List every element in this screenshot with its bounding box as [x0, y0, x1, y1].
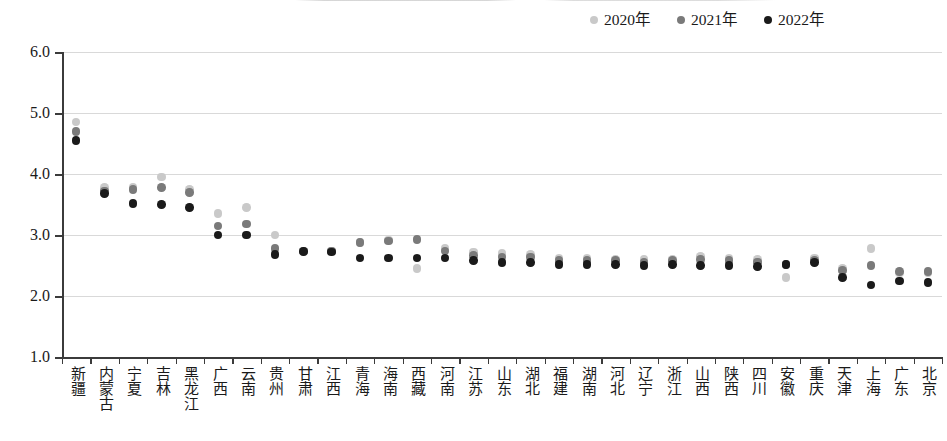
category-label-广西: 广西 — [209, 366, 227, 396]
x-tick — [204, 357, 205, 364]
title-ghost — [295, 0, 775, 1]
y-tick-label: 5.0 — [0, 105, 50, 121]
category-label-四川: 四川 — [748, 366, 766, 396]
gridline — [62, 235, 942, 236]
x-tick — [828, 357, 829, 364]
cropped-title-strip — [0, 0, 947, 7]
plot-area — [62, 52, 942, 357]
category-label-新疆: 新疆 — [67, 366, 85, 396]
y-axis-labels: 6.05.04.03.02.01.0 — [0, 0, 52, 441]
legend-label: 2022年 — [778, 12, 825, 28]
data-point — [583, 260, 592, 269]
category-label-吉林: 吉林 — [152, 366, 170, 396]
x-tick — [772, 357, 773, 364]
category-label-浙江: 浙江 — [663, 366, 681, 396]
x-tick — [658, 357, 659, 364]
data-point — [157, 183, 166, 192]
x-tick — [743, 357, 744, 364]
data-point — [413, 264, 422, 273]
x-tick — [857, 357, 858, 364]
x-tick — [715, 357, 716, 364]
data-point — [725, 261, 734, 270]
y-tick-label: 2.0 — [0, 288, 50, 304]
category-label-陕西: 陕西 — [720, 366, 738, 396]
y-tick — [55, 235, 63, 237]
data-point — [555, 260, 564, 269]
category-label-北京: 北京 — [919, 366, 937, 396]
y-tick — [55, 296, 63, 298]
gridline — [62, 113, 942, 114]
x-tick — [687, 357, 688, 364]
data-point — [924, 267, 933, 276]
data-point — [838, 273, 847, 282]
chart-legend: 2020年2021年2022年 — [590, 12, 825, 28]
x-tick — [374, 357, 375, 364]
gridline — [62, 174, 942, 175]
data-point — [413, 235, 422, 244]
category-label-贵州: 贵州 — [266, 366, 284, 396]
x-tick — [431, 357, 432, 364]
category-label-湖南: 湖南 — [578, 366, 596, 396]
x-tick — [176, 357, 177, 364]
category-label-广东: 广东 — [890, 366, 908, 396]
category-label-山东: 山东 — [493, 366, 511, 396]
x-tick — [119, 357, 120, 364]
data-point — [157, 200, 166, 209]
data-point — [242, 231, 251, 240]
data-point — [185, 188, 194, 197]
y-tick-label: 6.0 — [0, 44, 50, 60]
x-tick — [516, 357, 517, 364]
data-point — [895, 277, 904, 286]
data-point — [327, 248, 336, 257]
legend-dot-icon — [677, 16, 685, 24]
legend-dot-icon — [764, 16, 772, 24]
data-point — [413, 254, 422, 263]
y-tick — [55, 113, 63, 115]
data-point — [157, 173, 166, 182]
data-point — [668, 260, 677, 269]
scatter-chart: 2020年2021年2022年 6.05.04.03.02.01.0 新疆内蒙古… — [0, 0, 947, 441]
category-label-西藏: 西藏 — [408, 366, 426, 396]
data-point — [242, 220, 251, 229]
data-point — [640, 261, 649, 270]
x-tick — [488, 357, 489, 364]
data-point — [214, 222, 223, 231]
y-tick — [55, 52, 63, 54]
category-label-江苏: 江苏 — [465, 366, 483, 396]
data-point — [384, 237, 393, 246]
data-point — [782, 273, 791, 282]
x-tick — [261, 357, 262, 364]
category-label-湖北: 湖北 — [521, 366, 539, 396]
category-label-内蒙古: 内蒙古 — [96, 366, 114, 411]
data-point — [782, 260, 791, 269]
x-tick — [800, 357, 801, 364]
legend-entry-2022年: 2022年 — [764, 12, 825, 28]
y-tick-label: 3.0 — [0, 227, 50, 243]
category-label-海南: 海南 — [379, 366, 397, 396]
legend-entry-2020年: 2020年 — [590, 12, 651, 28]
x-tick — [289, 357, 290, 364]
data-point — [441, 254, 450, 263]
legend-dot-icon — [590, 16, 598, 24]
data-point — [129, 185, 138, 194]
x-tick — [147, 357, 148, 364]
y-tick-label: 1.0 — [0, 349, 50, 365]
category-label-辽宁: 辽宁 — [635, 366, 653, 396]
legend-label: 2021年 — [691, 12, 738, 28]
category-label-黑龙江: 黑龙江 — [181, 366, 199, 411]
category-label-安徽: 安徽 — [777, 366, 795, 396]
data-point — [696, 261, 705, 270]
x-tick — [317, 357, 318, 364]
x-tick — [601, 357, 602, 364]
category-label-山西: 山西 — [692, 366, 710, 396]
category-label-青海: 青海 — [351, 366, 369, 396]
data-point — [271, 250, 280, 259]
data-point — [356, 254, 365, 263]
data-point — [129, 199, 138, 208]
data-point — [185, 203, 194, 212]
y-tick-label: 4.0 — [0, 166, 50, 182]
x-tick — [62, 357, 63, 364]
data-point — [384, 254, 393, 263]
data-point — [867, 281, 876, 290]
data-point — [924, 278, 933, 287]
